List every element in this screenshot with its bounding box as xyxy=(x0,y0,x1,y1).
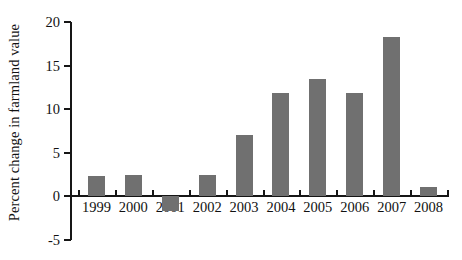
x-axis-tick xyxy=(299,190,301,196)
y-axis-tick-label: 15 xyxy=(46,57,61,74)
bar-chart-figure: Percent change in farmland value 2015105… xyxy=(0,0,462,260)
y-axis-title: Percent change in farmland value xyxy=(6,12,24,232)
bar xyxy=(199,175,216,197)
y-axis-tick xyxy=(64,152,71,154)
x-axis-tick-label: 2004 xyxy=(266,199,295,216)
y-axis-line xyxy=(70,22,72,240)
x-axis-tick xyxy=(447,190,449,196)
y-axis-tick-label: 0 xyxy=(53,188,60,205)
x-axis-tick-label: 2000 xyxy=(119,199,148,216)
x-axis-tick-label: 2007 xyxy=(377,199,406,216)
bar xyxy=(383,37,400,197)
x-axis-tick xyxy=(152,190,154,196)
y-axis-title-text: Percent change in farmland value xyxy=(7,23,24,220)
y-axis-tick xyxy=(64,108,71,110)
bar xyxy=(420,187,437,197)
x-axis-tick xyxy=(78,190,80,196)
x-axis-tick-label: 2008 xyxy=(414,199,443,216)
x-axis-tick xyxy=(115,190,117,196)
bar xyxy=(88,176,105,196)
x-axis-tick-label: 1999 xyxy=(82,199,111,216)
y-axis-tick xyxy=(64,21,71,23)
x-axis-tick xyxy=(410,190,412,196)
clipped-chart-title xyxy=(0,0,462,6)
bar xyxy=(309,79,326,197)
bar xyxy=(125,175,142,197)
x-axis-tick xyxy=(373,190,375,196)
plot-area: 20151050-5199920002001200220032004200520… xyxy=(70,22,447,240)
y-axis-tick-label: -5 xyxy=(48,232,60,249)
x-axis-tick-label: 2006 xyxy=(340,199,369,216)
y-axis-tick xyxy=(64,195,71,197)
x-axis-tick xyxy=(226,190,228,196)
y-axis-tick-label: 10 xyxy=(46,101,61,118)
x-axis-tick xyxy=(336,190,338,196)
y-axis-tick-label: 20 xyxy=(46,14,61,31)
y-axis-tick-label: 5 xyxy=(53,144,60,161)
bar xyxy=(236,135,253,196)
x-axis-tick xyxy=(189,190,191,196)
y-axis-tick xyxy=(64,239,71,241)
x-axis-tick xyxy=(263,190,265,196)
y-axis-tick xyxy=(64,65,71,67)
x-axis-tick-label: 2002 xyxy=(193,199,222,216)
bar xyxy=(162,196,179,211)
x-axis-tick-label: 2005 xyxy=(303,199,332,216)
x-axis-tick-label: 2003 xyxy=(230,199,259,216)
bar xyxy=(272,93,289,197)
bar xyxy=(346,93,363,197)
